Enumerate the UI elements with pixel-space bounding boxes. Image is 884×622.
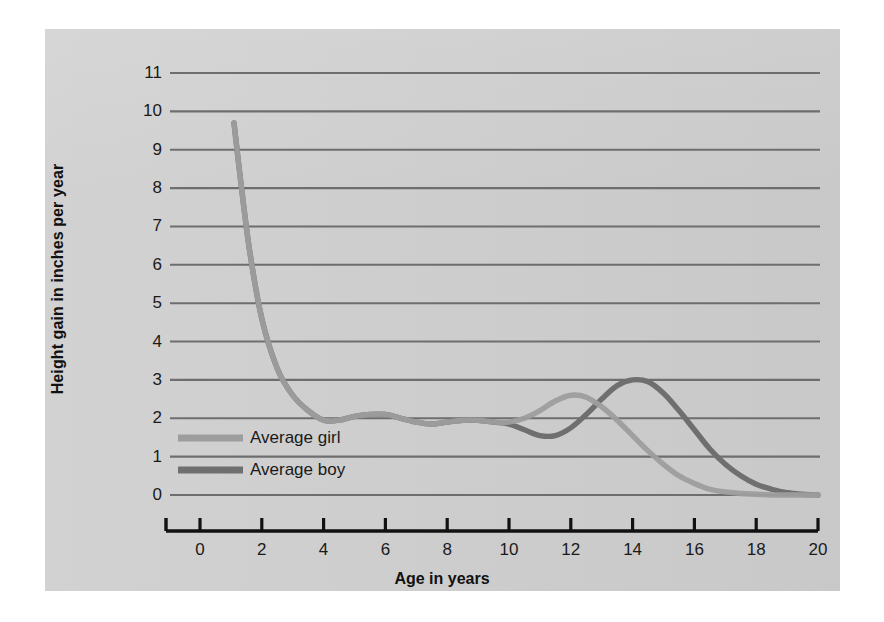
y-axis-tick-label: 1	[122, 448, 162, 465]
x-axis-tick-label: 0	[180, 541, 220, 558]
legend-label: Average boy	[250, 461, 345, 478]
x-axis-tick-label: 10	[489, 541, 529, 558]
y-axis-tick-label: 8	[122, 179, 162, 196]
x-axis-tick-label: 14	[613, 541, 653, 558]
y-axis-tick-label: 11	[122, 64, 162, 81]
x-axis-title: Age in years	[0, 570, 884, 588]
x-axis-tick-label: 20	[798, 541, 838, 558]
x-axis-tick-label: 18	[736, 541, 776, 558]
x-axis-tick-label: 4	[304, 541, 344, 558]
x-axis-tick-label: 16	[674, 541, 714, 558]
x-axis-tick-label: 2	[242, 541, 282, 558]
y-axis-tick-label: 0	[122, 486, 162, 503]
y-axis-tick-label: 9	[122, 141, 162, 158]
x-axis-tick-label: 6	[365, 541, 405, 558]
y-axis-tick-label: 10	[122, 102, 162, 119]
legend-label: Average girl	[250, 429, 340, 446]
y-axis-tick-label: 6	[122, 256, 162, 273]
figure-root: 01234567891011 02468101214161820 Average…	[0, 0, 884, 622]
x-axis-line	[166, 518, 818, 531]
y-axis-tick-label: 4	[122, 333, 162, 350]
x-axis-tick-label: 8	[427, 541, 467, 558]
y-axis-tick-label: 7	[122, 217, 162, 234]
y-axis-tick-label: 2	[122, 409, 162, 426]
y-axis-title: Height gain in inches per year	[49, 129, 67, 429]
legend-swatches	[178, 438, 243, 470]
x-axis-tick-label: 12	[551, 541, 591, 558]
y-axis-tick-label: 5	[122, 294, 162, 311]
y-axis-tick-label: 3	[122, 371, 162, 388]
